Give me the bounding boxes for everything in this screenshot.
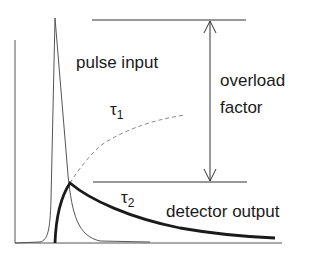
tau1-label: τ1: [110, 100, 124, 122]
pulse-input-label: pulse input: [76, 53, 159, 72]
detector-output-label: detector output: [166, 202, 280, 221]
tau1-dashed-curve: [70, 115, 185, 183]
overload-diagram: pulse input overload factor τ1 τ2 detect…: [0, 0, 313, 253]
overload-label: overload: [220, 71, 285, 90]
factor-label: factor: [220, 98, 263, 117]
tau2-label: τ2: [121, 188, 135, 210]
